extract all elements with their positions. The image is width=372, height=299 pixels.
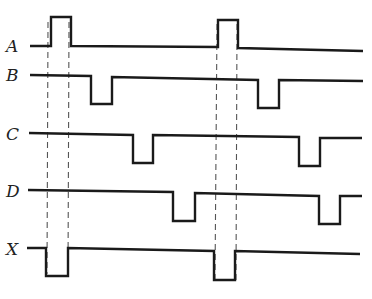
signal-label-d: D	[5, 181, 20, 201]
signal-label-x: X	[4, 239, 19, 259]
dashed-guide-line-3	[215, 24, 217, 280]
waveform-c	[29, 133, 362, 166]
dashed-guide-lines	[47, 22, 237, 280]
signal-label-a: A	[4, 36, 18, 56]
dashed-guide-line-4	[236, 24, 237, 280]
waveform-x	[27, 248, 360, 280]
timing-diagram: ABCDX	[0, 0, 372, 299]
signal-label-c: C	[6, 124, 19, 144]
signal-waveforms	[27, 17, 363, 280]
waveform-d	[28, 190, 362, 224]
signal-label-b: B	[5, 65, 19, 85]
waveform-b	[30, 75, 363, 108]
dashed-guide-line-1	[47, 22, 48, 274]
signal-labels: ABCDX	[4, 36, 20, 259]
waveform-a	[30, 17, 363, 51]
dashed-guide-line-2	[68, 22, 69, 274]
